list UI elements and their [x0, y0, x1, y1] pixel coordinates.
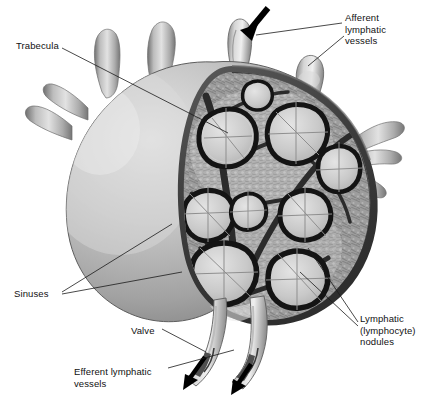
- label-efferent-lymphatic-vessels: Efferent lymphatic vessels: [74, 366, 152, 389]
- figure-canvas: Trabecula Afferent lymphatic vessels Lym…: [0, 0, 428, 402]
- label-afferent-lymphatic-vessels: Afferent lymphatic vessels: [345, 12, 386, 47]
- label-trabecula: Trabecula: [16, 40, 59, 52]
- label-lymphatic-nodules: Lymphatic (lymphocyte) nodules: [360, 313, 416, 348]
- label-valve: Valve: [131, 325, 155, 337]
- label-sinuses: Sinuses: [14, 288, 49, 300]
